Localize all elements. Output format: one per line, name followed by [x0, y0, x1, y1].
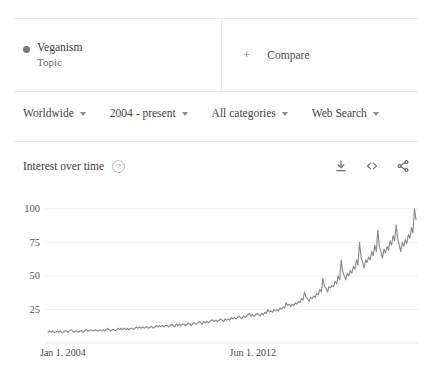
svg-text:100: 100 [24, 203, 40, 214]
search-chip-card: Veganism Topic + Compare [14, 18, 418, 92]
filter-bar: Worldwide 2004 - present All categories … [23, 107, 379, 119]
trend-chart-svg: 255075100 Jan 1, 2004Jun 1, 2012 [14, 188, 418, 356]
chart-header: Interest over time ? [23, 155, 410, 177]
filter-category[interactable]: All categories [212, 107, 288, 119]
x-axis-ticks: Jan 1, 2004Jun 1, 2012 [40, 347, 276, 356]
filter-location-label: Worldwide [23, 107, 74, 119]
filter-search-type[interactable]: Web Search [312, 107, 379, 119]
search-term-label: Veganism [37, 40, 82, 55]
download-icon[interactable] [334, 159, 348, 173]
share-icon[interactable] [396, 159, 410, 173]
chevron-down-icon [373, 112, 379, 116]
svg-text:75: 75 [30, 237, 41, 248]
search-term-chip[interactable]: Veganism Topic [14, 19, 222, 91]
filter-timerange-label: 2004 - present [110, 107, 176, 119]
chevron-down-icon [182, 112, 188, 116]
filter-timerange[interactable]: 2004 - present [110, 107, 188, 119]
embed-icon[interactable] [365, 159, 379, 173]
x-axis-tick-label: Jun 1, 2012 [230, 347, 276, 356]
trend-chart[interactable]: 255075100 Jan 1, 2004Jun 1, 2012 [14, 188, 418, 356]
filter-location[interactable]: Worldwide [23, 107, 86, 119]
compare-label: Compare [267, 49, 309, 61]
series-color-dot [23, 46, 30, 53]
filter-search-type-label: Web Search [312, 107, 367, 119]
svg-text:50: 50 [30, 270, 41, 281]
chevron-down-icon [282, 112, 288, 116]
help-icon[interactable]: ? [112, 160, 125, 173]
interest-over-time-panel: Interest over time ? [14, 141, 418, 355]
chart-actions [334, 159, 410, 173]
plus-icon: + [243, 47, 250, 63]
chart-title: Interest over time [23, 160, 104, 172]
filter-category-label: All categories [212, 107, 276, 119]
add-comparison-button[interactable]: + Compare [222, 19, 418, 91]
x-axis-tick-label: Jan 1, 2004 [40, 347, 86, 356]
svg-text:25: 25 [30, 304, 41, 315]
trend-line [48, 209, 416, 333]
chevron-down-icon [80, 112, 86, 116]
search-term-type: Topic [37, 55, 82, 70]
y-axis-ticks: 255075100 [24, 203, 40, 315]
